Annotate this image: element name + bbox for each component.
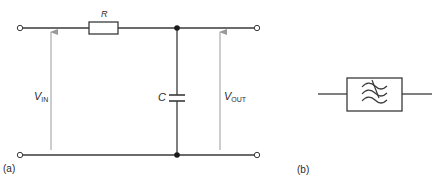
circuit-diagram <box>0 0 445 185</box>
input-terminal-bottom <box>17 152 22 157</box>
output-terminal-top <box>254 25 259 30</box>
input-terminal-top <box>17 25 22 30</box>
vin-label: VIN <box>34 91 48 103</box>
junction-dot-bottom <box>174 152 180 158</box>
resistor-label: R <box>101 10 108 19</box>
capacitor-label: C <box>158 92 166 103</box>
vout-subscript: OUT <box>231 96 246 103</box>
vin-subscript: IN <box>41 96 48 103</box>
filter-block-symbol <box>318 78 432 111</box>
figure-a-label: (a) <box>3 164 15 174</box>
filter-box <box>347 78 402 111</box>
resistor-r <box>89 22 118 34</box>
vout-label: VOUT <box>224 91 246 103</box>
figure-b-label: (b) <box>297 165 309 175</box>
output-terminal-bottom <box>254 152 259 157</box>
junction-dot-top <box>174 25 180 31</box>
